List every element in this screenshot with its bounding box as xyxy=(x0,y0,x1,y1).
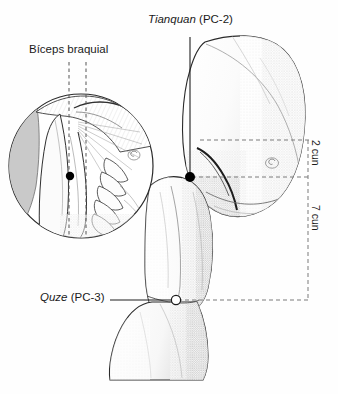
label-tianquan-code: (PC-2) xyxy=(199,13,233,25)
point-marker-pc-2-inset[interactable] xyxy=(66,172,74,180)
point-marker-pc-2[interactable] xyxy=(185,172,195,182)
label-biceps-braquial: Bíceps braquial xyxy=(29,43,108,55)
label-tianquan-name: Tianquan xyxy=(148,13,196,25)
label-quze-code: (PC-3) xyxy=(71,291,105,303)
label-tianquan: Tianquan (PC-2) xyxy=(148,13,233,25)
label-quze: Quze (PC-3) xyxy=(40,291,105,303)
point-marker-pc-3[interactable] xyxy=(171,295,180,304)
illustration-page: Tianquan (PC-2) Bíceps braquial Quze (PC… xyxy=(0,0,338,394)
label-quze-name: Quze xyxy=(40,291,68,303)
label-cun-7: 7 cun xyxy=(310,205,322,231)
label-cun-2: 2 cun xyxy=(310,140,322,166)
anatomical-figure xyxy=(0,0,338,394)
